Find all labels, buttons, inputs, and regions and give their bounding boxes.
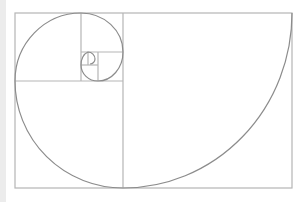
outer-rectangle [15, 13, 292, 188]
golden-rectangle-frame [15, 13, 292, 188]
golden-spiral-curve [15, 13, 292, 188]
golden-spiral-diagram [0, 0, 304, 202]
